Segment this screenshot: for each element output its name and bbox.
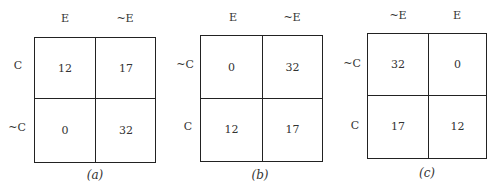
- table-cell: 17: [263, 99, 322, 160]
- row-header: C: [8, 59, 28, 72]
- table-cell: 12: [35, 38, 95, 98]
- table-cell: 0: [35, 99, 95, 161]
- row-header: ~C: [174, 58, 196, 71]
- grid-divider: [368, 95, 486, 96]
- table-cell: 17: [368, 96, 428, 157]
- col-header: ~E: [110, 12, 140, 25]
- table-cell: 32: [368, 34, 428, 95]
- grid-divider: [262, 36, 263, 161]
- contingency-table-a: E ~E C ~C 12 17 0 32 (a): [0, 0, 165, 193]
- table-cell: 17: [96, 38, 156, 98]
- grid-divider: [201, 98, 322, 99]
- row-header: C: [345, 119, 365, 132]
- table-cell: 32: [96, 99, 156, 161]
- table-cell: 0: [429, 34, 486, 95]
- col-header: E: [50, 12, 80, 25]
- table-cell: 0: [201, 36, 262, 98]
- table-grid: 32 0 17 12: [367, 33, 487, 159]
- row-header: ~C: [341, 57, 363, 70]
- grid-divider: [428, 34, 429, 158]
- table-caption: (b): [240, 168, 280, 182]
- table-grid: 0 32 12 17: [200, 35, 323, 162]
- col-header: ~E: [383, 9, 413, 22]
- col-header: ~E: [277, 11, 307, 24]
- col-header: E: [218, 11, 248, 24]
- table-caption: (a): [75, 168, 115, 182]
- table-cell: 12: [201, 99, 262, 160]
- table-cell: 32: [263, 36, 322, 98]
- row-header: ~C: [6, 121, 28, 134]
- table-cell: 12: [429, 96, 486, 157]
- row-header: C: [178, 120, 198, 133]
- table-caption: (c): [407, 166, 447, 180]
- col-header: E: [442, 9, 472, 22]
- table-grid: 12 17 0 32: [34, 37, 156, 163]
